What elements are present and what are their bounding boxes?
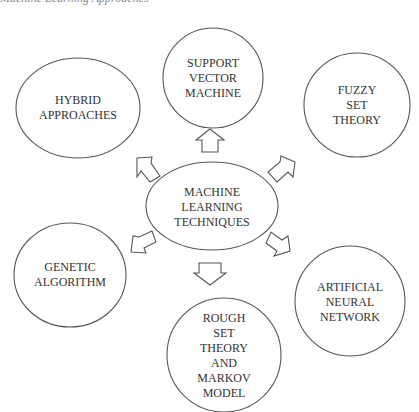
arrow-down-right-icon	[266, 232, 290, 256]
ann-node-label: ARTIFICIAL NEURAL NETWORK	[317, 280, 383, 325]
center-node-label: MACHINE LEARNING TECHNIQUES	[174, 185, 249, 230]
arrow-up-right-icon	[268, 156, 295, 182]
arrow-up-icon	[196, 129, 224, 152]
hybrid-node-label: HYBRID APPROACHES	[39, 93, 117, 123]
ml-techniques-diagram: Machine Learning Approaches SUPPORT VECT…	[0, 0, 419, 412]
arrow-up-left-icon	[137, 157, 160, 182]
fuzzy-node-label: FUZZY SET THEORY	[326, 83, 388, 128]
svm-node-label: SUPPORT VECTOR MACHINE	[185, 56, 241, 101]
arrow-down-icon	[194, 263, 226, 285]
rough-node-label: ROUGH SET THEORY AND MARKOV MODEL	[197, 311, 250, 401]
arrow-down-left-icon	[131, 231, 156, 253]
genetic-node-label: GENETIC ALGORITHM	[34, 260, 106, 290]
